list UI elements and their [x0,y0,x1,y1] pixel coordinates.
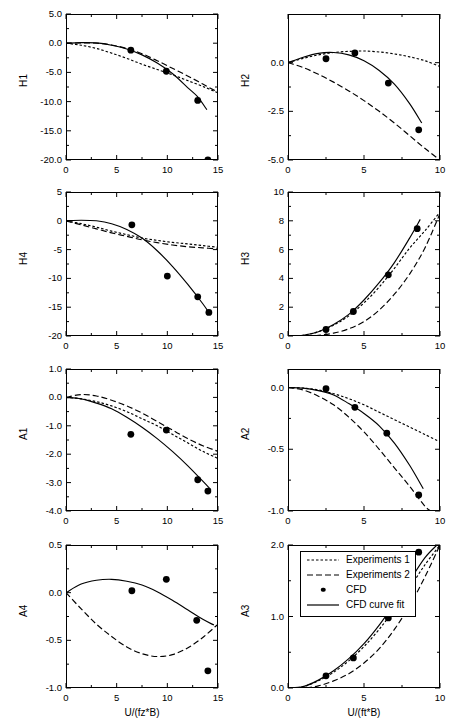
cfd-data-point [205,309,212,316]
y-tick-label: -10 [18,273,62,283]
cfd-data-point [194,293,201,300]
cfd-data-point [204,488,211,495]
plot-canvas-a1 [66,369,218,511]
y-tick-label: 0 [240,331,284,341]
plot-area-h1 [66,14,218,160]
curve-solid [288,52,422,123]
x-tick-label: 10 [425,165,449,175]
x-tick-label: 5 [349,516,379,526]
curve-dotted [288,212,440,336]
y-tick-label: 6 [240,245,284,255]
cfd-data-point [350,655,357,662]
x-tick-label: 5 [349,165,379,175]
cfd-data-point [194,476,201,483]
curve-dashed [288,214,440,336]
x-tick-label: 10 [425,693,449,703]
legend-item-experiments-2: Experiments 2 [301,567,415,582]
legend-item-cfd-curve-fit: CFD curve fit [301,597,415,612]
y-tick-label: 1.0 [240,612,284,622]
legend-label: CFD curve fit [341,599,404,610]
y-tick-label: 0.0 [240,58,284,68]
legend-key-marker [305,584,341,596]
y-tick-label: -2.0 [18,449,62,459]
y-tick-label: 2 [240,302,284,312]
curve-dashed [66,395,218,452]
curve-dashed [66,593,218,657]
x-tick-label: 15 [203,693,233,703]
cfd-data-point [323,55,330,62]
cfd-data-point [383,430,390,437]
x-tick-label: 10 [152,165,182,175]
y-tick-label: -0.5 [240,444,284,454]
curve-dashed [288,63,440,160]
x-tick-label: 10 [425,341,449,351]
cfd-data-point [415,126,422,133]
cfd-data-point [194,97,201,104]
legend-item-experiments-1: Experiments 1 [301,552,415,567]
x-tick-label: 5 [102,516,132,526]
plot-canvas-h1 [66,14,218,160]
cfd-data-point [415,549,422,556]
cfd-data-point [128,221,135,228]
y-tick-label: -5.0 [240,155,284,165]
legend-label: CFD [341,584,367,595]
y-axis-label: H1 [18,74,29,87]
y-axis-label: A2 [240,427,251,440]
cfd-data-point [204,667,211,674]
y-tick-label: 5 [18,187,62,197]
x-tick-label: 15 [203,165,233,175]
y-axis-label: A1 [18,427,29,440]
curve-solid [288,388,423,489]
y-tick-label: 2.0 [240,540,284,550]
cfd-data-point [128,587,135,594]
y-tick-label: 8 [240,216,284,226]
y-axis-label: H4 [18,252,29,265]
x-tick-label: 10 [152,516,182,526]
curve-dotted [66,221,218,248]
x-tick-label: 5 [349,693,379,703]
plot-area-h4 [66,192,218,336]
cfd-data-point [323,385,330,392]
legend-marker-icon [321,587,326,592]
cfd-data-point [323,326,330,333]
y-tick-label: 5.0 [18,9,62,19]
y-tick-label: 0 [18,216,62,226]
curve-solid [66,43,207,110]
x-tick-label: 0 [51,165,81,175]
cfd-data-point [163,68,170,75]
cfd-data-point [385,80,392,87]
curve-dotted [288,51,440,67]
y-tick-label: -20 [18,331,62,341]
curve-solid [66,397,211,489]
x-tick-label: 5 [102,165,132,175]
plot-canvas-a4 [66,545,218,688]
x-tick-label: 10 [425,516,449,526]
y-tick-label: 0.0 [18,38,62,48]
y-tick-label: 4 [240,273,284,283]
y-tick-label: -5.0 [18,67,62,77]
plot-canvas-a2 [288,369,440,511]
curve-solid [66,579,214,625]
legend-key-dashed [305,569,341,581]
x-tick-label: 0 [273,693,303,703]
y-tick-label: -15 [18,302,62,312]
plot-area-a2 [288,369,440,511]
y-tick-label: -10.0 [18,97,62,107]
cfd-data-point [193,617,200,624]
y-tick-label: 0.5 [18,540,62,550]
x-axis-label: U/(fz*B) [92,707,192,718]
curve-dotted [66,43,218,93]
curve-dashed [66,221,218,249]
y-tick-label: -1.0 [240,506,284,516]
cfd-data-point [127,47,134,54]
y-tick-label: 0.0 [18,392,62,402]
y-tick-label: -4.0 [18,506,62,516]
plot-area-a1 [66,369,218,511]
x-tick-label: 5 [349,341,379,351]
x-tick-label: 10 [152,341,182,351]
x-tick-label: 0 [51,516,81,526]
x-tick-label: 5 [102,693,132,703]
curve-solid [66,220,210,314]
y-axis-label: A4 [18,604,29,617]
y-tick-label: -20.0 [18,155,62,165]
